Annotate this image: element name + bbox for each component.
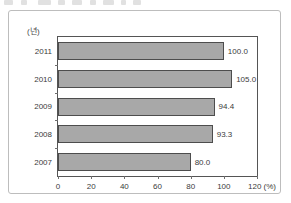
y-axis-unit-label: (년) [27, 25, 40, 36]
category-label-2007: 2007 [34, 158, 52, 167]
x-axis-tick [191, 176, 192, 179]
bar-value-2010: 105.0 [236, 74, 256, 83]
x-axis-tick [58, 176, 59, 179]
y-axis-tick [55, 148, 58, 149]
bar-2010[interactable] [58, 70, 232, 88]
bar-value-2009: 94.4 [219, 102, 235, 111]
category-label-2008: 2008 [34, 130, 52, 139]
bar-row: 200994.4 [58, 93, 257, 121]
category-label-2009: 2009 [34, 102, 52, 111]
x-axis-label-80: 80 [186, 182, 195, 191]
bar-2008[interactable] [58, 125, 213, 143]
scan-artifact-strip [0, 0, 291, 9]
bar-row: 200893.3 [58, 120, 257, 148]
bar-value-2007: 80.0 [195, 158, 211, 167]
x-axis-label-120: 120 (%) [248, 182, 276, 191]
bar-row: 200780.0 [58, 148, 257, 176]
x-axis-label-40: 40 [120, 182, 129, 191]
x-axis-label-100: 100 [217, 182, 230, 191]
x-axis-tick [124, 176, 125, 179]
bar-row: 2011100.0 [58, 37, 257, 65]
chart-figure-frame: (년) 2011100.02010105.0200994.4200893.320… [8, 10, 281, 194]
bar-value-2008: 93.3 [217, 130, 233, 139]
x-axis-label-0: 0 [56, 182, 60, 191]
bar-2011[interactable] [58, 42, 224, 60]
x-axis-tick [158, 176, 159, 179]
bar-row: 2010105.0 [58, 65, 257, 93]
y-axis-tick [55, 65, 58, 66]
bar-2009[interactable] [58, 98, 215, 116]
x-axis-label-60: 60 [153, 182, 162, 191]
plot-area: 2011100.02010105.0200994.4200893.3200780… [57, 36, 258, 177]
category-label-2011: 2011 [35, 46, 52, 55]
bar-value-2011: 100.0 [228, 46, 248, 55]
x-axis-tick [91, 176, 92, 179]
x-axis-label-20: 20 [87, 182, 96, 191]
x-axis-tick [257, 176, 258, 179]
y-axis-tick [55, 93, 58, 94]
category-label-2010: 2010 [34, 74, 52, 83]
x-axis-tick [224, 176, 225, 179]
y-axis-tick [55, 120, 58, 121]
bar-2007[interactable] [58, 153, 191, 171]
